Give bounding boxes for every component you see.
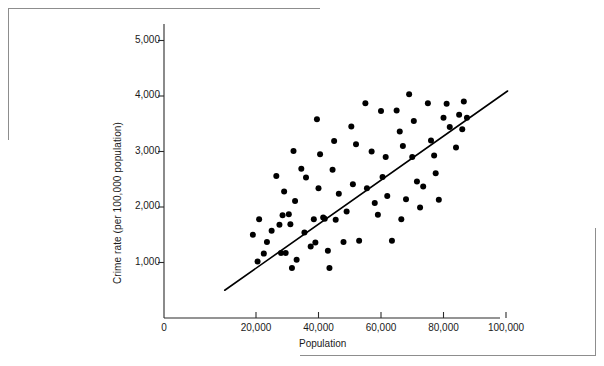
data-point <box>280 212 286 218</box>
data-point <box>311 216 317 222</box>
data-point <box>444 101 450 107</box>
data-point <box>325 248 331 254</box>
data-point <box>453 145 459 151</box>
data-point <box>456 112 462 118</box>
data-point <box>383 154 389 160</box>
data-point <box>403 196 409 202</box>
data-point <box>303 175 309 181</box>
data-point <box>276 222 282 228</box>
data-point <box>317 151 323 157</box>
data-point <box>333 217 339 223</box>
data-point <box>394 107 400 113</box>
data-point <box>428 137 434 143</box>
data-point <box>330 167 336 173</box>
data-point <box>269 228 275 234</box>
data-point <box>364 185 370 191</box>
data-point <box>459 126 465 132</box>
data-point <box>433 170 439 176</box>
data-point <box>291 148 297 154</box>
data-point <box>411 118 417 124</box>
data-point <box>362 100 368 106</box>
data-point <box>292 198 298 204</box>
data-point <box>316 185 322 191</box>
scatter-plot <box>0 0 604 366</box>
data-point <box>287 221 293 227</box>
data-point <box>294 257 300 263</box>
data-point <box>301 230 307 236</box>
data-point <box>356 238 362 244</box>
data-point <box>384 193 390 199</box>
data-point <box>436 197 442 203</box>
data-point <box>397 129 403 135</box>
data-point <box>250 232 256 238</box>
data-point <box>400 143 406 149</box>
data-point <box>417 205 423 211</box>
data-point <box>441 115 447 121</box>
data-point <box>414 178 420 184</box>
data-point <box>353 141 359 147</box>
data-point <box>447 124 453 130</box>
data-point <box>464 115 470 121</box>
data-point <box>322 216 328 222</box>
data-points-group <box>250 91 470 271</box>
data-point <box>369 149 375 155</box>
data-point <box>289 265 295 271</box>
data-point <box>431 152 437 158</box>
data-point <box>341 239 347 245</box>
data-point <box>344 208 350 214</box>
data-point <box>283 250 289 256</box>
data-point <box>336 191 342 197</box>
figure-page: Crime rate (per 100,000 population) Popu… <box>0 0 604 366</box>
data-point <box>298 166 304 172</box>
data-point <box>264 239 270 245</box>
data-point <box>372 200 378 206</box>
data-point <box>308 243 314 249</box>
data-point <box>389 238 395 244</box>
data-point <box>350 181 356 187</box>
data-point <box>380 174 386 180</box>
data-point <box>375 212 381 218</box>
data-point <box>461 99 467 105</box>
data-point <box>331 138 337 144</box>
data-point <box>261 251 267 257</box>
data-point <box>326 265 332 271</box>
data-point <box>420 183 426 189</box>
data-point <box>406 91 412 97</box>
data-point <box>425 100 431 106</box>
data-point <box>256 216 262 222</box>
data-point <box>348 124 354 130</box>
data-point <box>398 216 404 222</box>
data-point <box>255 258 261 264</box>
data-point <box>378 108 384 114</box>
data-point <box>286 211 292 217</box>
data-point <box>281 188 287 194</box>
data-point <box>409 154 415 160</box>
data-point <box>312 240 318 246</box>
data-point <box>314 116 320 122</box>
data-point <box>273 173 279 179</box>
